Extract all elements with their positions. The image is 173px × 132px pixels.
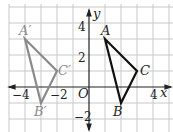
coordinate-plane: y x O A B C A′ B′ C′ −4 −2 4 4 2 −2 [0, 0, 173, 132]
label-a-prime: A′ [18, 23, 31, 38]
label-c-prime: C′ [58, 63, 71, 78]
x-tick-neg2: −2 [50, 88, 68, 102]
label-b: B [112, 104, 123, 119]
x-tick-4: 4 [150, 88, 158, 102]
y-axis-label: y [92, 6, 101, 21]
x-tick-neg4: −4 [12, 88, 30, 102]
label-c: C [140, 63, 150, 78]
y-tick-neg2: −2 [74, 110, 92, 124]
y-tick-2: 2 [78, 51, 86, 65]
label-b-prime: B′ [33, 104, 47, 119]
y-tick-4: 4 [78, 20, 86, 34]
label-a: A [100, 23, 110, 38]
x-axis-label: x [160, 85, 168, 100]
origin-label: O [78, 86, 89, 101]
